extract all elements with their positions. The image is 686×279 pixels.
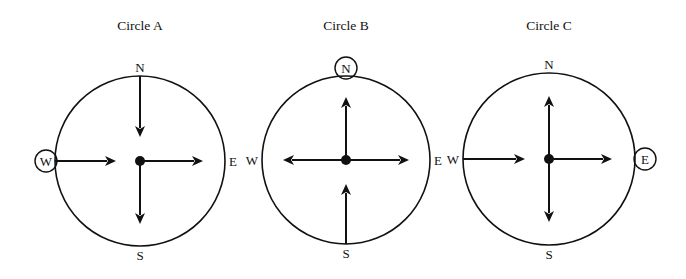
arrow-center-to-e [549, 154, 612, 164]
arrow-center-to-w [283, 155, 346, 165]
arrow-center-to-n [341, 97, 351, 160]
arrow-n-to-center [135, 76, 145, 137]
circle-title: Circle C [526, 18, 571, 33]
direction-label-e: E [229, 154, 237, 169]
center-dot [135, 156, 145, 166]
arrow-center-to-e [140, 156, 203, 166]
direction-label-s: S [342, 246, 349, 261]
center-dot [341, 155, 351, 165]
arrow-center-to-n [544, 96, 554, 159]
direction-label-s: S [136, 248, 143, 263]
circle-title: Circle A [117, 18, 163, 33]
direction-label-e: E [434, 153, 442, 168]
direction-label-e: E [641, 152, 649, 167]
center-dot [544, 154, 554, 164]
circle-b-figure: Circle BNSEW [246, 18, 442, 261]
circle-c-figure: Circle CNSEW [447, 18, 656, 262]
circle-a-figure: Circle ANSEW [35, 18, 237, 263]
arrow-center-to-s [544, 159, 554, 222]
direction-label-n: N [135, 60, 145, 75]
direction-label-w: W [40, 154, 53, 169]
arrow-w-to-center [463, 154, 525, 164]
arrow-s-to-center [341, 184, 351, 244]
circle-title: Circle B [323, 18, 368, 33]
arrow-center-to-s [135, 161, 145, 224]
direction-label-w: W [246, 153, 259, 168]
direction-label-w: W [447, 152, 460, 167]
direction-label-n: N [341, 61, 351, 76]
direction-label-s: S [545, 247, 552, 262]
direction-label-n: N [544, 57, 554, 72]
arrow-center-to-e [346, 155, 409, 165]
compass-diagram: Circle ANSEWCircle BNSEWCircle CNSEW [0, 0, 686, 279]
arrow-w-to-center [55, 156, 116, 166]
